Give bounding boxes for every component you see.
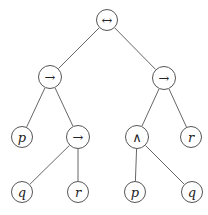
- tree-edge: [58, 28, 99, 69]
- tree-edge: [135, 149, 136, 181]
- tree-edge: [30, 145, 70, 184]
- node-r: r: [180, 126, 202, 148]
- node-and: ∧: [125, 125, 149, 149]
- tree-edges: [0, 0, 208, 215]
- expression-tree: ↔ → → p → ∧ r q r p q: [0, 0, 208, 215]
- tree-edge: [27, 88, 45, 127]
- node-q: q: [181, 181, 203, 203]
- tree-edge: [145, 145, 184, 184]
- node-p: p: [124, 181, 146, 203]
- node-root-biconditional: ↔: [96, 9, 118, 31]
- tree-edge: [115, 28, 156, 70]
- node-r: r: [67, 181, 89, 203]
- node-inner-implies: →: [66, 125, 90, 149]
- tree-edge: [55, 88, 73, 126]
- node-p: p: [11, 126, 33, 148]
- node-q: q: [11, 181, 33, 203]
- tree-edge: [169, 89, 186, 127]
- node-right-implies: →: [152, 66, 176, 90]
- tree-edge: [142, 89, 159, 126]
- node-left-implies: →: [38, 65, 62, 89]
